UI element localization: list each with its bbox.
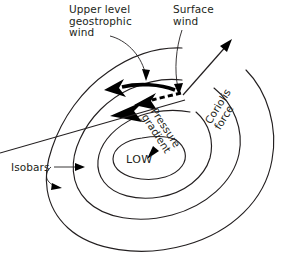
leader-isobars-straight [54,163,85,171]
label-upper-level-geostrophic-wind: Upper level geostrophic wind [69,4,132,39]
label-isobars: Isobars [11,162,50,174]
leader-surface-wind [174,30,183,95]
diagram-root: Upper level geostrophic wind Surface win… [0,0,293,261]
coriolis-force-arrow [183,39,232,95]
label-surface-wind: Surface wind [173,4,214,27]
label-low-pressure-centre: LOW [126,154,152,166]
geostrophic-wind-arrow [104,79,175,97]
